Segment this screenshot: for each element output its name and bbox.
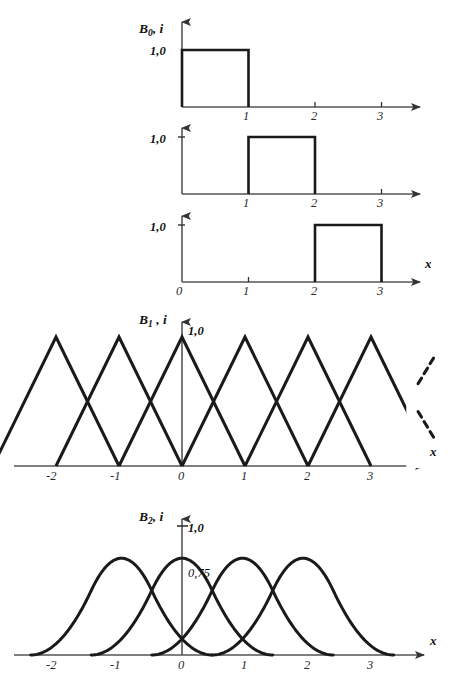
b0-step-curve-2 — [249, 137, 316, 194]
x-tick-b1-3: 3 — [367, 470, 373, 483]
x-tick-b1-1: 1 — [241, 470, 247, 483]
x-tick-b2-1: 1 — [241, 659, 247, 672]
b1-triangle — [245, 337, 371, 466]
y-value-label-panel3: 1,0 — [150, 221, 166, 234]
y-value-label-b2: 1,0 — [188, 522, 204, 535]
x-tick-b1-0: 0 — [178, 470, 184, 483]
bspline-basis-figure: B0, i 1,0 1 2 3 1,0 1 2 3 1,0 0 1 2 3 x … — [0, 0, 465, 686]
x-tick-panel3-2: 2 — [311, 285, 317, 298]
b0-step-curve-3 — [315, 225, 382, 282]
plot-canvas — [0, 0, 465, 686]
b0-step-curve-1 — [182, 50, 249, 107]
x-tick-panel1-1: 1 — [243, 110, 249, 123]
x-axis-label-panel3: x — [425, 257, 432, 270]
series-label-b0: B0, i — [139, 22, 163, 38]
x-axis-label-b2: x — [430, 634, 437, 647]
x-tick-panel3-1: 1 — [243, 285, 249, 298]
x-tick-panel2-2: 2 — [311, 197, 317, 210]
y-value-label-b1: 1,0 — [188, 325, 204, 338]
series-label-b2: B2, i — [139, 510, 163, 526]
b1-triangle — [56, 337, 182, 466]
series-label-b1: B1 , i — [139, 313, 167, 329]
x-tick-b2-m1: -1 — [110, 659, 120, 672]
x-tick-panel1-3: 3 — [377, 110, 383, 123]
y-peak-label-b2: 0,75 — [188, 567, 210, 580]
x-tick-panel1-2: 2 — [311, 110, 317, 123]
x-tick-b2-3: 3 — [367, 659, 373, 672]
x-tick-b2-0: 0 — [178, 659, 184, 672]
x-tick-b1-m1: -1 — [110, 470, 120, 483]
x-tick-panel3-3: 3 — [377, 285, 383, 298]
x-tick-panel3-0: 0 — [176, 285, 182, 298]
x-tick-b1-m2: -2 — [46, 470, 56, 483]
x-axis-label-b1: x — [430, 445, 437, 458]
y-value-label-panel2: 1,0 — [150, 133, 166, 146]
x-tick-b2-2: 2 — [304, 659, 310, 672]
x-tick-b1-2: 2 — [304, 470, 310, 483]
x-tick-panel2-1: 1 — [243, 197, 249, 210]
b1-triangle — [0, 337, 119, 466]
x-tick-b2-m2: -2 — [46, 659, 56, 672]
y-value-label-panel1: 1,0 — [150, 45, 166, 58]
b1-triangle — [182, 337, 308, 466]
x-tick-panel2-3: 3 — [377, 197, 383, 210]
